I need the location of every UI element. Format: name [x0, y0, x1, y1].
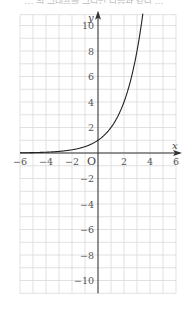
y-tick-label: −2	[80, 173, 94, 184]
y-tick-label: 4	[88, 97, 94, 108]
y-tick-label: −8	[80, 250, 94, 261]
x-tick-label: 4	[147, 156, 153, 167]
x-tick-label: −6	[13, 156, 27, 167]
x-tick-label: 2	[121, 156, 127, 167]
x-axis-label: x	[172, 140, 178, 151]
x-tick-label: −2	[65, 156, 79, 167]
y-tick-label: −6	[80, 224, 94, 235]
y-axis-label: y	[87, 12, 94, 23]
y-tick-label: 2	[88, 122, 94, 133]
x-tick-label: −4	[39, 156, 53, 167]
y-tick-label: 6	[88, 71, 94, 82]
curve-y-equals-2-power-x	[20, 14, 143, 153]
x-tick-label: 6	[173, 156, 179, 167]
y-tick-label: −4	[80, 199, 94, 210]
y-tick-label: 8	[88, 46, 94, 57]
exponential-graph: −6−4−2246108642−2−4−6−8−10 x y O	[0, 0, 188, 311]
origin-label: O	[87, 155, 96, 168]
y-tick-label: −10	[74, 275, 94, 286]
